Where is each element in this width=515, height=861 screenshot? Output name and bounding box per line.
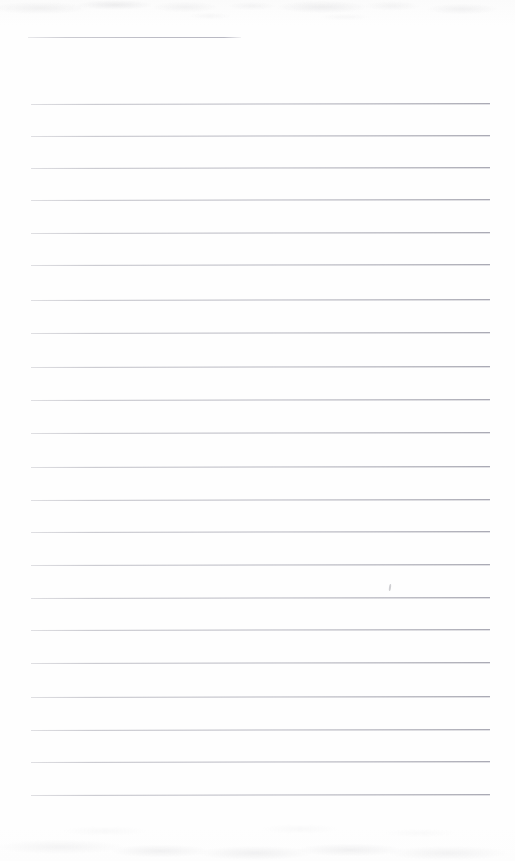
scan-noise-top xyxy=(0,0,515,26)
paper-background xyxy=(0,0,515,861)
scanned-page xyxy=(0,0,515,861)
scan-noise-bottom xyxy=(0,801,515,861)
partial-top-rule xyxy=(28,37,241,38)
